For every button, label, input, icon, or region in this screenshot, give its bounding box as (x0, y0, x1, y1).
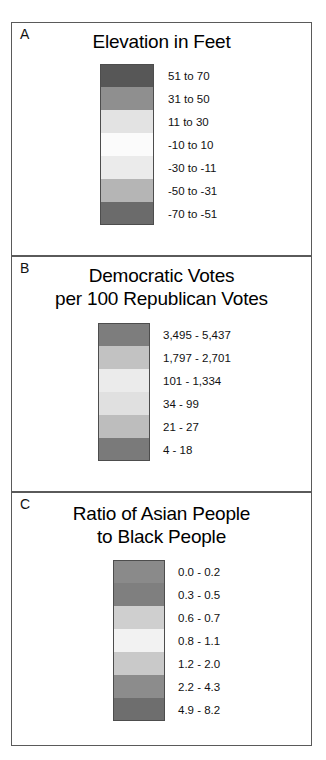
legend-swatch (113, 698, 165, 721)
legend-item: 2.2 - 4.3 (113, 675, 220, 698)
legend-item: -10 to 10 (100, 133, 217, 156)
legend-item: -30 to -11 (100, 156, 217, 179)
panel-b-title-line-1: Democratic Votes (12, 264, 311, 287)
legend-swatch-label: 34 - 99 (150, 398, 199, 410)
panel-b-legend: 3,495 - 5,437 1,797 - 2,701 101 - 1,334 … (98, 323, 231, 461)
legend-swatch-label: 51 to 70 (154, 70, 210, 82)
legend-swatch (98, 415, 150, 438)
legend-swatch (100, 133, 154, 156)
legend-swatch (100, 87, 154, 110)
legend-swatch (113, 629, 165, 652)
legend-swatch-label: 0.3 - 0.5 (165, 589, 220, 601)
legend-item: -50 to -31 (100, 179, 217, 202)
panel-c-title: Ratio of Asian People to Black People (12, 502, 311, 548)
legend-item: 4.9 - 8.2 (113, 698, 220, 721)
legend-swatch-label: -30 to -11 (154, 162, 216, 174)
legend-item: 101 - 1,334 (98, 369, 231, 392)
legend-swatch-label: 4 - 18 (150, 444, 192, 456)
legend-swatch-label: 4.9 - 8.2 (165, 704, 220, 716)
legend-swatch (113, 606, 165, 629)
legend-item: 4 - 18 (98, 438, 231, 461)
legend-item: 0.0 - 0.2 (113, 560, 220, 583)
legend-swatch (98, 392, 150, 415)
legend-swatch-label: 101 - 1,334 (150, 375, 221, 387)
legend-swatch (98, 438, 150, 461)
legend-item: 1,797 - 2,701 (98, 346, 231, 369)
legend-swatch (100, 110, 154, 133)
legend-swatch (100, 64, 154, 87)
panel-c-title-line-1: Ratio of Asian People (12, 502, 311, 525)
legend-swatch-label: 0.6 - 0.7 (165, 612, 220, 624)
legend-swatch-label: 1,797 - 2,701 (150, 352, 231, 364)
legend-swatch-label: 21 - 27 (150, 421, 199, 433)
panel-a-legend: 51 to 70 31 to 50 11 to 30 -10 to 10 -30… (100, 64, 217, 225)
legend-figure: A Elevation in Feet 51 to 70 31 to 50 11… (0, 0, 326, 760)
legend-swatch (98, 369, 150, 392)
legend-item: 31 to 50 (100, 87, 217, 110)
panel-b-title: Democratic Votes per 100 Republican Vote… (12, 264, 311, 310)
legend-item: 0.3 - 0.5 (113, 583, 220, 606)
legend-swatch (98, 346, 150, 369)
legend-swatch (113, 560, 165, 583)
legend-item: 0.6 - 0.7 (113, 606, 220, 629)
legend-swatch-label: 0.8 - 1.1 (165, 635, 220, 647)
legend-swatch-label: 1.2 - 2.0 (165, 658, 220, 670)
legend-item: 21 - 27 (98, 415, 231, 438)
legend-swatch (113, 652, 165, 675)
panel-a: A Elevation in Feet 51 to 70 31 to 50 11… (11, 22, 312, 256)
legend-item: 11 to 30 (100, 110, 217, 133)
panel-c-title-line-2: to Black People (12, 525, 311, 548)
panel-a-title-line-1: Elevation in Feet (12, 30, 311, 53)
panel-b: B Democratic Votes per 100 Republican Vo… (11, 256, 312, 492)
legend-swatch-label: -50 to -31 (154, 185, 217, 197)
legend-swatch-label: 31 to 50 (154, 93, 210, 105)
legend-swatch-label: -10 to 10 (154, 139, 213, 151)
legend-swatch (113, 583, 165, 606)
legend-swatch (100, 202, 154, 225)
legend-swatch (113, 675, 165, 698)
legend-swatch-label: 3,495 - 5,437 (150, 329, 231, 341)
legend-item: 51 to 70 (100, 64, 217, 87)
legend-item: 0.8 - 1.1 (113, 629, 220, 652)
panel-c-legend: 0.0 - 0.2 0.3 - 0.5 0.6 - 0.7 0.8 - 1.1 … (113, 560, 220, 721)
legend-swatch-label: 11 to 30 (154, 116, 209, 128)
legend-swatch-label: 0.0 - 0.2 (165, 566, 220, 578)
legend-item: 34 - 99 (98, 392, 231, 415)
legend-swatch-label: 2.2 - 4.3 (165, 681, 220, 693)
legend-swatch (100, 179, 154, 202)
legend-swatch (100, 156, 154, 179)
panel-b-title-line-2: per 100 Republican Votes (12, 287, 311, 310)
panel-c: C Ratio of Asian People to Black People … (11, 492, 312, 746)
legend-item: -70 to -51 (100, 202, 217, 225)
legend-swatch (98, 323, 150, 346)
legend-item: 1.2 - 2.0 (113, 652, 220, 675)
panel-a-title: Elevation in Feet (12, 30, 311, 53)
legend-swatch-label: -70 to -51 (154, 208, 217, 220)
legend-item: 3,495 - 5,437 (98, 323, 231, 346)
